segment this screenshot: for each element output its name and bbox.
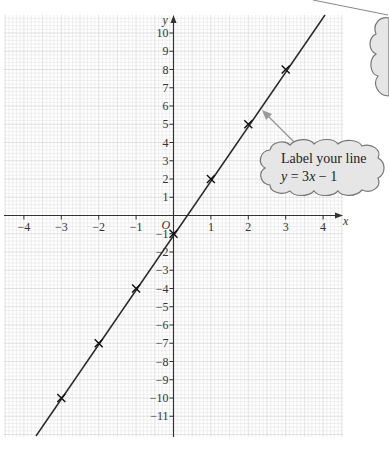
y-tick-label: 5 <box>163 117 169 131</box>
y-tick-label: −7 <box>156 336 169 350</box>
callout-eq-mid: = 3 <box>287 169 309 184</box>
x-tick-label: −4 <box>18 220 31 234</box>
x-tick-label: 2 <box>245 220 251 234</box>
y-tick-label: 2 <box>163 172 169 186</box>
cloud-callout: Label your line y = 3x − 1 <box>260 140 384 196</box>
y-tick-label: −9 <box>156 373 169 387</box>
cloud-shape <box>260 140 384 196</box>
y-tick-label: 6 <box>163 99 169 113</box>
x-tick-label: −1 <box>130 220 143 234</box>
y-tick-label: 8 <box>163 63 169 77</box>
cloud-callout-partial <box>370 18 389 96</box>
callout-equation: y = 3x − 1 <box>279 169 337 184</box>
origin-label: O <box>162 218 171 232</box>
y-tick-label: −6 <box>156 318 169 332</box>
y-tick-label: 7 <box>163 81 169 95</box>
y-tick-label: 9 <box>163 44 169 58</box>
pointer-line <box>313 0 388 15</box>
y-tick-label: −5 <box>156 300 169 314</box>
x-axis-label: x <box>342 214 349 228</box>
x-tick-label: −2 <box>92 220 105 234</box>
graph-canvas: −4−3−2−1123410987654321−1−2−3−4−5−6−7−8−… <box>0 0 389 459</box>
y-tick-label: −4 <box>156 282 169 296</box>
y-axis-label: y <box>162 13 169 27</box>
y-tick-label: 1 <box>163 190 169 204</box>
callout-eq-end: − 1 <box>315 169 337 184</box>
y-tick-label: 10 <box>157 26 169 40</box>
x-tick-label: −3 <box>55 220 68 234</box>
y-tick-label: 4 <box>163 136 169 150</box>
x-tick-label: 4 <box>320 220 326 234</box>
y-tick-label: 3 <box>163 154 169 168</box>
y-tick-label: −3 <box>156 263 169 277</box>
y-tick-label: −11 <box>150 409 168 423</box>
y-tick-label: −10 <box>150 391 169 405</box>
x-tick-label: 3 <box>283 220 289 234</box>
y-tick-label: −8 <box>156 355 169 369</box>
callout-line1: Label your line <box>281 151 367 166</box>
x-tick-label: 1 <box>208 220 214 234</box>
